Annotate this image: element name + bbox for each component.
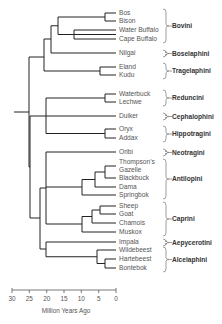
tribe-label: Aepycerotini: [172, 239, 212, 247]
taxon-label: Springbok: [119, 191, 149, 199]
tribe-label: Caprini: [172, 215, 195, 223]
tick-label: 10: [78, 295, 85, 302]
brace-icon: [162, 8, 172, 44]
taxon-label: Thompson's: [119, 158, 155, 166]
brace-icon: [162, 158, 172, 200]
taxon-label: Goat: [119, 210, 133, 218]
brace-icon: [162, 49, 172, 58]
taxon-label: Bison: [119, 17, 136, 25]
tribe-label: Antilopini: [172, 175, 202, 183]
brace-icon: [162, 246, 172, 273]
tribe-label: Bovini: [172, 22, 192, 30]
taxon-label: Oribi: [119, 148, 133, 156]
taxon-label: Oryx: [119, 125, 133, 133]
brace-icon: [162, 148, 172, 157]
taxon-label: Dama: [119, 183, 137, 191]
taxon-label: Duiker: [119, 112, 138, 120]
tribe-label: Boselaphini: [172, 50, 209, 58]
tribe-label: Neotragini: [172, 149, 205, 157]
taxon-label: Nilgai: [119, 49, 136, 57]
time-axis: [12, 288, 116, 293]
taxon-label: Impala: [119, 238, 139, 246]
taxon-label: Chamois: [119, 219, 145, 227]
brace-icon: [162, 201, 172, 237]
brace-icon: [162, 125, 172, 143]
taxon-label: Bontebok: [119, 264, 147, 272]
tribe-label: Hippotragini: [172, 130, 211, 138]
taxon-label: Hartebeest: [119, 255, 151, 263]
taxon-label: Blackbuck: [119, 174, 149, 182]
tribe-label: Cephalophini: [172, 113, 214, 121]
brace-icon: [162, 62, 172, 80]
tick-label: 20: [43, 295, 50, 302]
brace-icon: [162, 112, 172, 121]
taxon-label: Kudu: [119, 71, 134, 79]
taxon-label: Eland: [119, 63, 136, 71]
taxon-label: Addax: [119, 134, 138, 142]
taxon-label: Water Buffalo: [119, 26, 159, 34]
taxon-label: Gazelle: [119, 166, 141, 174]
brace-icon: [162, 89, 172, 107]
tick-label: 0: [114, 295, 118, 302]
taxon-label: Lechwe: [119, 98, 142, 106]
tick-label: 30: [8, 295, 15, 302]
taxon-label: Wildebeest: [119, 246, 152, 254]
axis-title: Million Years Ago: [20, 307, 112, 314]
taxon-label: Bos: [119, 9, 130, 17]
tick-label: 15: [60, 295, 67, 302]
tribe-label: Alcelaphini: [172, 256, 207, 264]
taxon-label: Sheep: [119, 202, 138, 210]
tick-label: 5: [97, 295, 101, 302]
taxon-label: Muskox: [119, 228, 142, 236]
taxon-label: Cape Buffalo: [119, 35, 157, 43]
taxon-label: Waterbuck: [119, 90, 150, 98]
tribe-label: Tragelaphini: [172, 67, 211, 75]
tree-branches: [14, 13, 116, 268]
tribe-label: Reduncini: [172, 94, 204, 102]
tick-label: 25: [26, 295, 33, 302]
